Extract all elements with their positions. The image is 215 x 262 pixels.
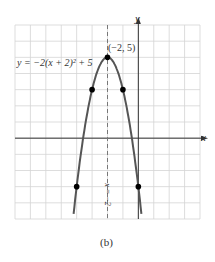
caption: (b) [100,236,113,248]
data-point [120,87,126,93]
data-point [105,55,111,61]
data-point [89,87,95,93]
parabola-graph [0,0,215,262]
equation-label: y = −2(x + 2)² + 5 [17,57,93,68]
vertex-label: (−2, 5) [108,42,135,53]
data-point [74,184,80,190]
data-point [136,184,142,190]
symmetry-label: x = −2 [103,183,112,205]
x-axis-label: x [201,131,206,143]
y-axis-label: y [135,12,140,24]
